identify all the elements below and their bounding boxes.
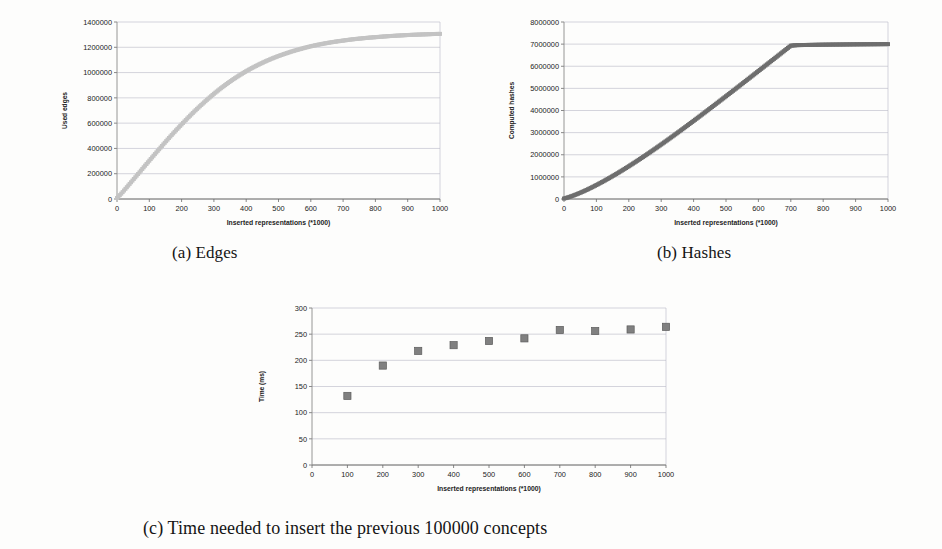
- x-tick-label: 500: [483, 470, 495, 479]
- y-tick-label: 1200000: [83, 43, 112, 52]
- y-tick-label: 200000: [87, 169, 112, 178]
- y-tick-label: 2000000: [530, 150, 559, 159]
- x-tick-label: 200: [377, 470, 389, 479]
- chart-hashes: 0100000020000003000000400000050000006000…: [500, 12, 900, 242]
- data-point: [485, 337, 492, 344]
- data-point: [521, 335, 528, 342]
- data-point: [438, 32, 442, 36]
- data-point: [450, 342, 457, 349]
- x-tick-label: 1000: [432, 204, 448, 213]
- chart-time: 0501001502002503000100200300400500600700…: [248, 292, 678, 507]
- x-tick-label: 600: [305, 204, 317, 213]
- x-tick-label: 0: [310, 470, 314, 479]
- data-point: [662, 323, 669, 330]
- y-tick-label: 1000000: [530, 173, 559, 182]
- x-tick-label: 300: [208, 204, 220, 213]
- y-tick-label: 600000: [87, 119, 112, 128]
- chart-edges-svg: 0200000400000600000800000100000012000001…: [55, 12, 455, 242]
- data-point: [886, 42, 890, 46]
- x-tick-label: 400: [240, 204, 252, 213]
- x-tick-label: 700: [785, 204, 797, 213]
- data-point: [592, 327, 599, 334]
- y-tick-label: 7000000: [530, 40, 559, 49]
- data-point: [627, 326, 634, 333]
- x-tick-label: 800: [817, 204, 829, 213]
- chart-hashes-svg: 0100000020000003000000400000050000006000…: [500, 12, 900, 242]
- x-axis-title: Inserted representations (*1000): [227, 219, 331, 227]
- y-tick-label: 0: [303, 461, 307, 470]
- x-tick-label: 900: [402, 204, 414, 213]
- data-point: [344, 392, 351, 399]
- x-tick-label: 600: [752, 204, 764, 213]
- x-tick-label: 300: [412, 470, 424, 479]
- y-tick-label: 1000000: [83, 68, 112, 77]
- x-tick-label: 0: [562, 204, 566, 213]
- x-tick-label: 100: [341, 470, 353, 479]
- x-tick-label: 900: [624, 470, 636, 479]
- x-tick-label: 0: [115, 204, 119, 213]
- x-tick-label: 400: [687, 204, 699, 213]
- y-tick-label: 8000000: [530, 18, 559, 27]
- y-tick-label: 200: [295, 356, 307, 365]
- y-tick-label: 100: [295, 408, 307, 417]
- y-tick-label: 800000: [87, 94, 112, 103]
- data-series: [344, 323, 670, 399]
- x-tick-label: 1000: [658, 470, 674, 479]
- x-tick-label: 200: [623, 204, 635, 213]
- y-axis-title: Used edges: [61, 92, 69, 129]
- x-tick-label: 400: [447, 470, 459, 479]
- data-series: [115, 32, 442, 200]
- y-tick-label: 1400000: [83, 18, 112, 27]
- x-axis-title: Inserted representations (*1000): [437, 485, 541, 493]
- y-tick-label: 150: [295, 382, 307, 391]
- x-tick-label: 800: [589, 470, 601, 479]
- caption-edges: (a) Edges: [172, 243, 238, 263]
- y-tick-label: 0: [555, 195, 559, 204]
- data-point: [415, 347, 422, 354]
- x-tick-label: 100: [143, 204, 155, 213]
- x-axis-title: Inserted representations (*1000): [674, 219, 778, 227]
- y-tick-label: 4000000: [530, 106, 559, 115]
- chart-edges: 0200000400000600000800000100000012000001…: [55, 12, 455, 242]
- y-axis-title: Time (ms): [258, 371, 266, 402]
- x-tick-label: 500: [272, 204, 284, 213]
- data-point: [556, 326, 563, 333]
- y-tick-label: 250: [295, 330, 307, 339]
- x-tick-label: 300: [655, 204, 667, 213]
- caption-time: (c) Time needed to insert the previous 1…: [143, 518, 547, 539]
- x-tick-label: 700: [554, 470, 566, 479]
- x-tick-label: 600: [518, 470, 530, 479]
- x-tick-label: 700: [337, 204, 349, 213]
- y-tick-label: 400000: [87, 144, 112, 153]
- y-tick-label: 5000000: [530, 84, 559, 93]
- chart-time-svg: 0501001502002503000100200300400500600700…: [248, 292, 678, 507]
- caption-hashes: (b) Hashes: [657, 243, 731, 263]
- y-axis-title: Computed hashes: [508, 82, 516, 139]
- x-tick-label: 500: [720, 204, 732, 213]
- y-tick-label: 3000000: [530, 128, 559, 137]
- x-tick-label: 1000: [880, 204, 896, 213]
- x-tick-label: 900: [849, 204, 861, 213]
- y-tick-label: 0: [108, 195, 112, 204]
- x-tick-label: 100: [590, 204, 602, 213]
- x-tick-label: 800: [369, 204, 381, 213]
- y-tick-label: 6000000: [530, 62, 559, 71]
- figure-page: 0200000400000600000800000100000012000001…: [0, 0, 942, 549]
- y-tick-label: 50: [299, 435, 307, 444]
- data-point: [379, 362, 386, 369]
- y-tick-label: 300: [295, 304, 307, 313]
- x-tick-label: 200: [175, 204, 187, 213]
